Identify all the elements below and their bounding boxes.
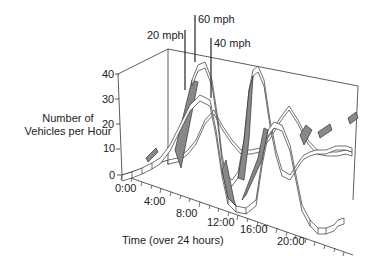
x-tick-8: 8:00: [176, 207, 197, 219]
series-label-20mph: 20 mph: [147, 29, 184, 41]
y-tick-10: 10: [103, 142, 115, 154]
x-tick-20: 20:00: [277, 235, 305, 247]
y-tick-0: 0: [109, 169, 115, 181]
x-tick-12: 12:00: [207, 216, 235, 228]
x-axis-label: Time (over 24 hours): [122, 234, 224, 246]
ribbon-60mph: [175, 62, 352, 186]
y-tick-20: 20: [102, 118, 114, 130]
y-tick-40: 40: [102, 68, 114, 80]
x-tick-0: 0:00: [115, 182, 136, 194]
series-label-60mph: 60 mph: [198, 13, 235, 25]
x-tick-16: 16:00: [240, 223, 268, 235]
x-tick-4: 4:00: [144, 195, 165, 207]
y-tick-30: 30: [102, 93, 114, 105]
series-label-40mph: 40 mph: [214, 37, 251, 49]
